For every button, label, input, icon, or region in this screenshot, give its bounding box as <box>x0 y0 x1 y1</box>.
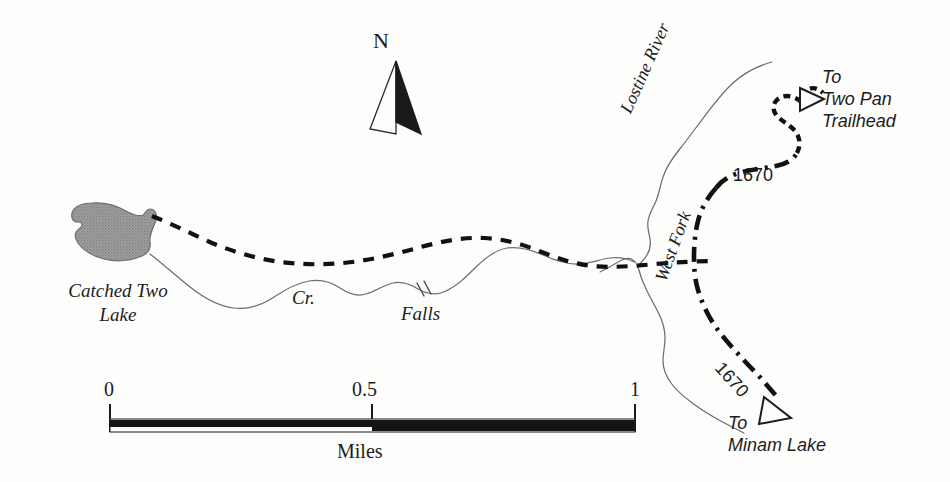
trail-1670-south <box>694 188 778 398</box>
map-graphics <box>0 0 950 482</box>
destination-two-pan-trailhead: To Two Pan Trailhead <box>822 66 896 132</box>
lake-shape <box>72 203 157 261</box>
north-letter-label: N <box>373 28 389 54</box>
scale-label-max: 1 <box>630 378 640 401</box>
creek-label: Cr. <box>292 287 315 309</box>
map-canvas: Catched Two Lake Cr. Falls Lostine River… <box>0 0 950 482</box>
scale-label-min: 0 <box>104 378 114 401</box>
trail-number-north: 1670 <box>733 165 773 186</box>
west-fork-line <box>638 267 744 433</box>
destination-minam-lake: To Minam Lake <box>728 412 826 456</box>
falls-label: Falls <box>401 303 440 325</box>
north-arrow-icon <box>370 61 421 134</box>
arrow-to-two-pan-icon <box>800 88 824 111</box>
lake-label: Catched Two Lake <box>44 279 192 327</box>
scale-units-label: Miles <box>337 440 383 463</box>
scale-bar <box>110 404 635 432</box>
scale-label-mid: 0.5 <box>352 378 377 401</box>
